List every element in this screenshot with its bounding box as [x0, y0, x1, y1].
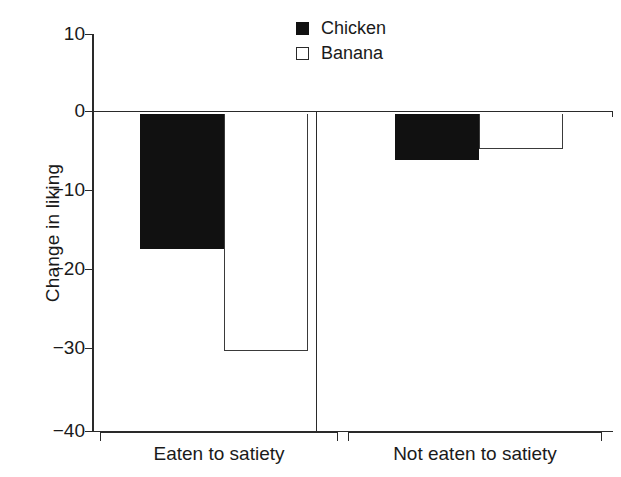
legend-label-chicken: Chicken	[321, 16, 386, 41]
y-tick-label-0: 0	[74, 100, 85, 122]
legend-label-banana: Banana	[321, 41, 383, 66]
y-axis-spine	[92, 34, 94, 432]
category-label-not-eaten: Not eaten to satiety	[348, 443, 602, 465]
bar-not-eaten-banana	[479, 114, 563, 150]
legend: Chicken Banana	[296, 16, 386, 66]
group-separator-left	[316, 111, 317, 431]
bar-not-eaten-chicken	[395, 114, 479, 160]
plot-area: 10 0 −10 −20 −30 −40	[92, 34, 613, 432]
y-tick-label-neg10: −10	[53, 179, 85, 201]
category-bracket-eaten	[100, 432, 338, 441]
legend-item-banana: Banana	[296, 41, 386, 66]
y-tick-label-neg20: −20	[53, 258, 85, 280]
legend-swatch-filled-square-icon	[296, 22, 309, 35]
y-axis-title: Change in liking	[42, 108, 64, 358]
category-bracket-not-eaten	[348, 432, 602, 441]
bar-eaten-banana	[224, 114, 308, 351]
y-tick-label-neg30: −30	[53, 337, 85, 359]
y-tick-label-neg40: −40	[53, 420, 85, 442]
legend-swatch-open-square-icon	[296, 47, 309, 60]
y-tick-label-10: 10	[64, 23, 85, 45]
category-label-eaten: Eaten to satiety	[100, 443, 338, 465]
bar-chart-figure: Change in liking 10 0 −10 −20 −30 −40	[0, 0, 621, 477]
zero-baseline	[92, 111, 613, 112]
bar-eaten-chicken	[140, 114, 224, 249]
plot-right-edge-tick	[612, 111, 613, 117]
legend-item-chicken: Chicken	[296, 16, 386, 41]
